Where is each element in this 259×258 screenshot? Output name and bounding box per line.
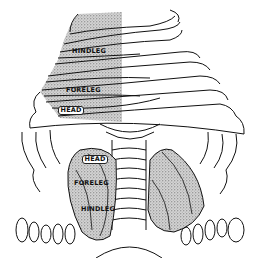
- label-upper-foreleg: FORELEG: [66, 87, 101, 94]
- vermis: [112, 140, 146, 230]
- anterior-lobe: [30, 10, 245, 134]
- label-lower-head: HEAD: [82, 155, 108, 164]
- label-upper-head: HEAD: [58, 106, 84, 115]
- label-upper-hindleg: HINDLEG: [72, 48, 106, 55]
- paraflocculus: [16, 218, 244, 258]
- cerebellum-diagram: [0, 0, 259, 258]
- label-lower-foreleg: FORELEG: [74, 180, 109, 187]
- label-lower-hindleg: HINDLEG: [81, 206, 115, 213]
- posterior-lobe-outer-folia: [22, 124, 237, 194]
- right-paramedian-lobule: [148, 149, 204, 232]
